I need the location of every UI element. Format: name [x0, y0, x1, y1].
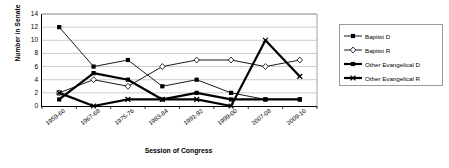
y-tick-label: 14	[31, 11, 38, 18]
data-point-diamond	[91, 77, 96, 83]
legend-label: Baptist D	[365, 33, 390, 40]
legend-marker-filled-square	[343, 58, 363, 70]
series-line	[59, 73, 300, 99]
data-point-square	[160, 84, 164, 88]
data-point-diamond	[194, 57, 199, 63]
x-tick-label: 2009-10	[268, 107, 307, 139]
legend-label: Baptist R	[365, 47, 390, 54]
x-tick-label: 1983-84	[130, 107, 169, 139]
data-point-square	[351, 62, 355, 66]
legend-marker-cross-x	[343, 72, 363, 84]
x-tick-label: 2007-08	[233, 107, 272, 139]
y-tick-label: 12	[31, 24, 38, 31]
data-point-square	[91, 64, 95, 68]
data-point-square	[263, 97, 267, 101]
data-point-diamond	[160, 64, 165, 70]
y-tick-label: 8	[34, 50, 38, 57]
data-point-diamond	[228, 57, 233, 63]
series-baptist-r	[56, 57, 302, 96]
legend-item: Other Evangelical R	[343, 71, 442, 85]
data-point-diamond	[263, 64, 268, 70]
data-point-diamond	[350, 47, 355, 53]
data-point-diamond	[125, 83, 130, 89]
data-point-square	[126, 78, 130, 82]
data-point-cross	[297, 74, 302, 79]
legend-item: Baptist R	[343, 43, 442, 57]
data-point-square	[57, 25, 61, 29]
y-tick-label: 4	[34, 76, 38, 83]
chart-legend: Baptist DBaptist ROther Evangelical DOth…	[339, 24, 443, 86]
x-tick-label: 1967-68	[61, 107, 100, 139]
y-tick-label: 6	[34, 63, 38, 70]
legend-marker-filled-square	[343, 30, 363, 42]
x-axis-tick-labels: 1959-601967-681975-761983-841991-921999-…	[41, 107, 316, 147]
legend-marker-open-diamond	[343, 44, 363, 56]
data-point-square	[298, 97, 302, 101]
y-axis-tick-labels: 02468101214	[22, 14, 38, 106]
x-tick-label: 1999-00	[199, 107, 238, 139]
x-tick-label: 1959-60	[27, 107, 66, 139]
data-point-diamond	[297, 57, 302, 63]
x-tick-label: 1991-92	[165, 107, 204, 139]
x-tick-label: 1975-76	[96, 107, 135, 139]
data-point-square	[195, 91, 199, 95]
plot-area	[41, 14, 317, 107]
x-axis-title: Session of Congress	[41, 147, 316, 154]
y-tick-label: 0	[34, 103, 38, 110]
y-tick-label: 10	[31, 37, 38, 44]
data-point-square	[126, 58, 130, 62]
legend-item: Other Evangelical D	[343, 57, 442, 71]
data-point-square	[229, 91, 233, 95]
data-point-square	[351, 34, 355, 38]
plot-svg	[42, 14, 317, 106]
y-tick-label: 2	[34, 90, 38, 97]
legend-label: Other Evangelical R	[365, 75, 420, 82]
line-chart: Number in Senate 02468101214 1959-601967…	[0, 0, 449, 168]
data-point-square	[91, 71, 95, 75]
data-point-square	[195, 78, 199, 82]
legend-label: Other Evangelical D	[365, 61, 420, 68]
data-point-square	[57, 97, 61, 101]
series-other-evangelical-d	[57, 71, 302, 101]
legend-item: Baptist D	[343, 29, 442, 43]
